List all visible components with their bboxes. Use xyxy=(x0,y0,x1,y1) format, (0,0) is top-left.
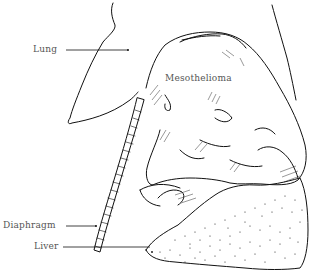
label-mesothelioma: Mesothelioma xyxy=(165,73,232,83)
label-lung: Lung xyxy=(33,44,57,54)
illustration-drawing xyxy=(0,0,313,272)
liver-stipple xyxy=(151,195,303,262)
label-diaphragm: Diaphragm xyxy=(3,220,56,230)
anatomy-illustration: Lung Mesothelioma Diaphragm Liver xyxy=(0,0,313,272)
body-contour-right xyxy=(272,5,296,100)
label-liver: Liver xyxy=(34,241,59,251)
liver-outline xyxy=(146,178,308,270)
lung-outline xyxy=(68,3,138,124)
